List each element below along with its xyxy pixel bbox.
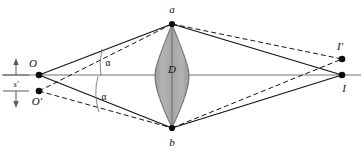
- label-object-O: O: [29, 57, 37, 69]
- point-O-prime: [36, 88, 43, 95]
- solid-ray-group: [39, 24, 342, 128]
- optics-figure: a b D O O' I I' α α s': [0, 0, 363, 151]
- angle-arc-upper: [100, 49, 102, 76]
- label-lens-diameter: D: [167, 63, 176, 75]
- ray-b-to-Iprime: [172, 59, 342, 128]
- ray-diagram-svg: a b D O O' I I' α α s': [0, 0, 363, 151]
- label-angle-alpha-upper: α: [106, 58, 111, 68]
- ray-a-to-I: [172, 24, 342, 75]
- label-angle-alpha-lower: α: [102, 92, 107, 102]
- point-I: [339, 72, 346, 79]
- point-a: [169, 21, 175, 27]
- point-O: [36, 72, 43, 79]
- lens-group: [155, 24, 189, 128]
- ray-a-to-Iprime: [172, 24, 342, 59]
- angle-arc-group: [96, 49, 102, 112]
- point-b: [169, 125, 175, 131]
- dashed-ray-group: [39, 24, 342, 128]
- label-point-a: a: [169, 3, 175, 15]
- label-point-b: b: [169, 136, 175, 148]
- dimension-arrowhead-up: [13, 58, 18, 65]
- label-object-O-prime: O': [32, 95, 43, 107]
- dimension-arrowhead-down: [13, 101, 18, 108]
- ray-b-to-I: [172, 75, 342, 128]
- label-image-I-prime: I': [336, 40, 344, 52]
- point-I-prime: [339, 56, 346, 63]
- label-image-I: I: [341, 82, 347, 94]
- label-separation-s-prime: s': [13, 79, 18, 89]
